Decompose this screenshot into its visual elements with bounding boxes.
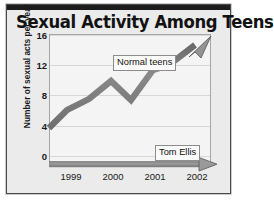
y-tick-label: 16 xyxy=(25,30,47,41)
chart-card: Sexual Activity Among Teens Number of se… xyxy=(6,4,231,194)
y-tick-label: 4 xyxy=(25,121,47,132)
y-tick-label: 0 xyxy=(25,151,47,162)
y-tick-label: 8 xyxy=(25,90,47,101)
callout-normal-teens: Normal teens xyxy=(113,55,176,71)
card-top-rule xyxy=(7,5,230,10)
y-axis-ticks: 16 12 8 4 0 xyxy=(21,34,47,167)
y-tick-label: 12 xyxy=(25,60,47,71)
callout-tom-ellis: Tom Ellis xyxy=(155,145,200,161)
series-normal-teens xyxy=(49,36,211,128)
